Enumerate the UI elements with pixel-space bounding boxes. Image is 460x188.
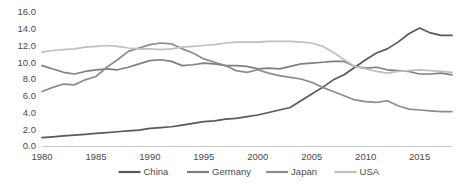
y-axis-tick-label: 8.0 [23, 73, 36, 84]
legend-label-germany: Germany [212, 166, 251, 177]
y-axis-tick-label: 0.0 [23, 140, 36, 151]
series-line-japan [42, 43, 452, 112]
x-axis-tick-label: 1980 [31, 151, 52, 162]
y-axis-tick-label: 6.0 [23, 90, 36, 101]
x-axis-tick-label: 2005 [301, 151, 322, 162]
y-axis-tick-label: 2.0 [23, 124, 36, 135]
x-axis-tick-label: 1985 [85, 151, 106, 162]
legend-label-japan: Japan [291, 166, 317, 177]
y-axis-tick-label: 14.0 [18, 23, 37, 34]
x-axis-tick-label: 2015 [409, 151, 430, 162]
y-axis-tick-labels: 0.02.04.06.08.010.012.014.016.0 [18, 6, 37, 151]
series-line-china [42, 28, 452, 138]
line-chart: 0.02.04.06.08.010.012.014.016.0 19801985… [0, 0, 460, 188]
x-axis-tick-label: 1995 [193, 151, 214, 162]
x-axis-tick-label: 2010 [355, 151, 376, 162]
chart-canvas: 0.02.04.06.08.010.012.014.016.0 19801985… [0, 0, 460, 188]
y-axis-tick-label: 12.0 [18, 40, 37, 51]
legend-label-usa: USA [360, 166, 380, 177]
plot-area: 0.02.04.06.08.010.012.014.016.0 19801985… [18, 6, 453, 162]
y-axis-tick-label: 10.0 [18, 57, 37, 68]
y-axis-tick-label: 4.0 [23, 107, 36, 118]
x-axis-tick-labels: 19801985199019952000200520102015 [31, 151, 430, 162]
x-axis-tick-label: 1990 [139, 151, 160, 162]
chart-legend: ChinaGermanyJapanUSA [119, 166, 380, 177]
y-axis-tick-label: 16.0 [18, 6, 37, 17]
x-axis-tick-label: 2000 [247, 151, 268, 162]
series-lines [42, 28, 452, 138]
legend-label-china: China [144, 166, 170, 177]
